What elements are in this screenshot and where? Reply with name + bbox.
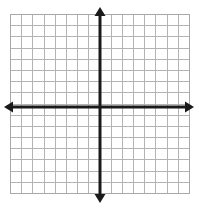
coordinate-grid-figure	[0, 0, 199, 209]
coordinate-plane-svg	[0, 0, 199, 209]
